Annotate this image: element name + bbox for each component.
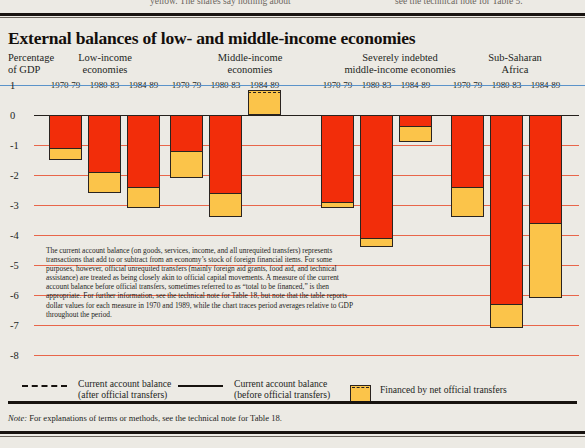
legend-item-3: Financed by net official transfers xyxy=(350,378,371,395)
yellow-box-icon xyxy=(350,385,371,402)
bar-dash-after-transfers xyxy=(490,304,523,305)
legend-label-2: Current account balance(before official … xyxy=(234,378,330,400)
y-tick-label--6: -6 xyxy=(10,290,19,301)
bar-middle-income-1984-89 xyxy=(248,0,281,380)
section-rule xyxy=(8,401,577,404)
figure-note-prefix: Note: xyxy=(8,413,27,423)
y-tick-label--7: -7 xyxy=(10,320,19,331)
solid-line-icon xyxy=(178,385,223,387)
bar-dash-after-transfers xyxy=(529,223,562,224)
bar-dash-after-transfers xyxy=(170,151,203,152)
dashed-line-icon xyxy=(22,385,67,387)
bar-segment-transfers xyxy=(248,90,281,116)
figure-note: Note: For explanations of terms or metho… xyxy=(8,413,282,423)
y-tick-label--1: -1 xyxy=(10,140,19,151)
bar-dash-after-transfers xyxy=(209,193,242,194)
bar-dash-after-transfers xyxy=(451,187,484,188)
y-tick-label-1: 1 xyxy=(10,80,15,91)
bar-segment-transfers xyxy=(360,238,393,247)
bottom-rule xyxy=(0,431,585,434)
bar-dash-after-transfers xyxy=(399,126,432,127)
bar-segment-transfers xyxy=(209,193,242,217)
bar-sub-saharan-1970-79 xyxy=(451,0,484,380)
bar-segment-transfers xyxy=(88,172,121,193)
bar-dash-after-transfers xyxy=(88,172,121,173)
bar-low-income-1984-89 xyxy=(127,0,160,380)
bar-middle-income-1980-83 xyxy=(209,0,242,380)
bar-segment-transfers xyxy=(170,151,203,178)
chart-annotation-text: The current account balance (on goods, s… xyxy=(46,246,354,319)
bottom-rule-hairline xyxy=(0,436,585,437)
y-tick-label-0: 0 xyxy=(10,110,15,121)
bar-low-income-1970-79 xyxy=(49,0,82,380)
bar-segment-before-transfers xyxy=(321,115,354,208)
bar-dash-after-transfers xyxy=(248,92,281,93)
bar-dash-after-transfers xyxy=(321,202,354,203)
legend-label-1: Current account balance(after official t… xyxy=(78,378,171,400)
legend-label-line1: Financed by net official transfers xyxy=(380,384,507,395)
bar-segment-transfers xyxy=(399,126,432,143)
legend-label-line1: Current account balance xyxy=(234,378,330,389)
bar-severely-1970-79 xyxy=(321,0,354,380)
y-tick-label--5: -5 xyxy=(10,260,19,271)
bar-severely-1984-89 xyxy=(399,0,432,380)
bar-dash-after-transfers xyxy=(127,187,160,188)
bar-low-income-1980-83 xyxy=(88,0,121,380)
bar-segment-before-transfers xyxy=(360,115,393,247)
bar-sub-saharan-1980-83 xyxy=(490,0,523,380)
figure-note-text: For explanations of terms or methods, se… xyxy=(27,413,282,423)
bar-segment-transfers xyxy=(127,187,160,208)
legend-label-line1: Current account balance xyxy=(78,378,171,389)
bar-severely-1980-83 xyxy=(360,0,393,380)
bar-dash-after-transfers xyxy=(360,238,393,239)
bar-segment-before-transfers xyxy=(490,115,523,328)
bar-sub-saharan-1984-89 xyxy=(529,0,562,380)
y-tick-label--8: -8 xyxy=(10,350,19,361)
bar-dash-after-transfers xyxy=(49,148,82,149)
bar-segment-transfers xyxy=(490,304,523,328)
chart-area: Percentage of GDP Low-incomeeconomiesMid… xyxy=(0,0,585,380)
bar-segment-transfers xyxy=(529,223,562,298)
bar-middle-income-1970-79 xyxy=(170,0,203,380)
bar-segment-transfers xyxy=(451,187,484,217)
y-tick-label--2: -2 xyxy=(10,170,19,181)
legend-label-3: Financed by net official transfers xyxy=(380,384,507,395)
legend-label-line2: (after official transfers) xyxy=(78,389,171,400)
bar-segment-transfers xyxy=(49,148,82,160)
y-tick-label--3: -3 xyxy=(10,200,19,211)
legend-label-line2: (before official transfers) xyxy=(234,389,330,400)
y-tick-label--4: -4 xyxy=(10,230,19,241)
